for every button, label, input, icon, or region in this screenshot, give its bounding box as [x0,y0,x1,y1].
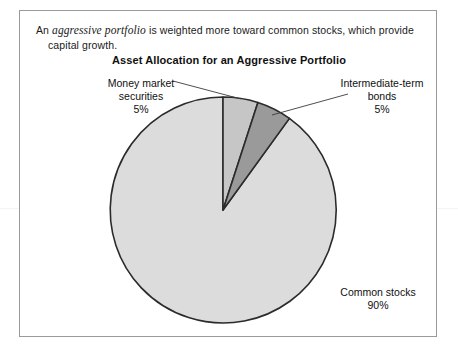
figure-frame: An aggressive portfolio is weighted more… [19,10,437,337]
pie-label-intermediate-bonds-line1: Intermediate-term [341,77,424,89]
pie-chart: Money market securities 5% Intermediate-… [20,11,438,338]
pie-label-intermediate-bonds: Intermediate-term bonds 5% [324,77,440,116]
pie-label-common-stocks-percent: 90% [323,299,433,312]
pie-label-intermediate-bonds-percent: 5% [324,103,440,116]
pie-label-money-market: Money market securities 5% [89,77,193,116]
pie-label-money-market-line2: securities [119,90,163,102]
pie-label-intermediate-bonds-line2: bonds [368,90,397,102]
pie-label-money-market-percent: 5% [89,103,193,116]
pie-label-money-market-line1: Money market [108,77,175,89]
pie-label-common-stocks: Common stocks 90% [323,286,433,312]
pie-label-common-stocks-line1: Common stocks [340,286,415,298]
